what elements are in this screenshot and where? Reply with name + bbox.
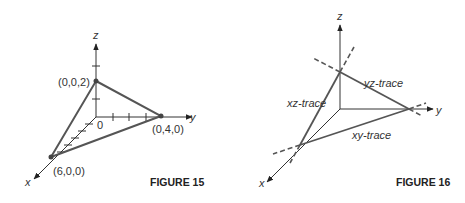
xy-trace-label: xy-trace — [351, 129, 391, 141]
x-axis — [267, 109, 340, 182]
figure-16: z y x xz-trace yz-trace xy-trace FIGURE … — [258, 10, 450, 189]
origin-label: 0 — [97, 119, 103, 131]
point-label-x: (6,0,0) — [53, 165, 85, 177]
point-y — [159, 114, 164, 119]
xz-trace-label: xz-trace — [286, 97, 326, 109]
y-axis-label: y — [435, 104, 443, 116]
x-axis-label: x — [24, 176, 31, 188]
y-axis-label: y — [189, 111, 197, 123]
z-axis-label: z — [92, 29, 99, 41]
point-x — [49, 155, 54, 160]
figure-canvas: z y x 0 (0,0,2) (0,4,0) (6,0,0) FIGURE 1… — [0, 0, 465, 203]
figure-15-caption: FIGURE 15 — [150, 176, 204, 188]
point-z — [94, 79, 99, 84]
z-axis-label: z — [336, 10, 343, 22]
figure-15: z y x 0 (0,0,2) (0,4,0) (6,0,0) FIGURE 1… — [24, 29, 204, 188]
yz-trace-label: yz-trace — [363, 77, 403, 89]
x-axis-label: x — [258, 177, 265, 189]
figure-16-caption: FIGURE 16 — [396, 176, 450, 188]
point-label-y: (0,4,0) — [152, 123, 184, 135]
point-label-z: (0,0,2) — [58, 76, 90, 88]
